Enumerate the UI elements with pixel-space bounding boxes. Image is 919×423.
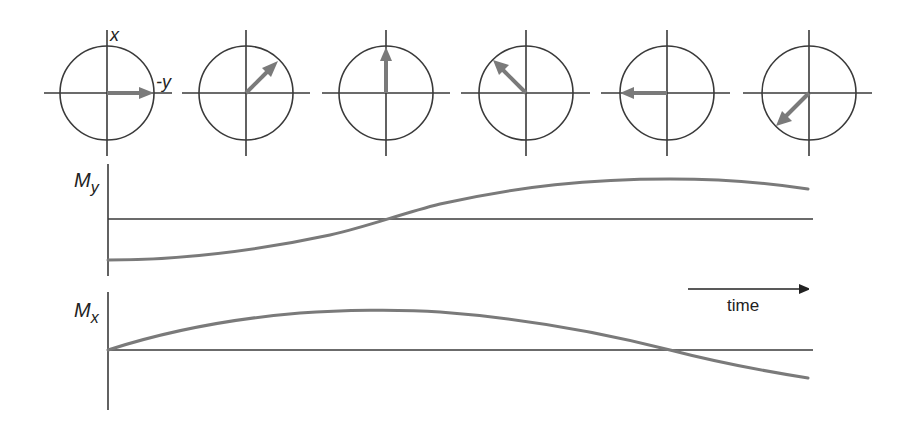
time-arrow: time (688, 289, 808, 315)
precession-diagram: x -y (0, 0, 919, 423)
neg-y-axis-label: -y (156, 72, 172, 92)
rotating-frame-circle-3 (461, 30, 590, 156)
rotating-frame-circle-5 (743, 30, 872, 156)
time-label: time (727, 296, 759, 315)
rotating-frame-circle-1 (182, 30, 310, 156)
my-plot: My (74, 164, 813, 276)
my-label: My (74, 169, 100, 196)
mx-label: Mx (74, 299, 100, 326)
x-axis-label: x (109, 25, 120, 45)
magnetization-vector-icon (620, 87, 634, 99)
magnetization-vector-icon (139, 87, 154, 99)
rotating-frame-circle-2 (322, 30, 450, 156)
mx-curve (108, 310, 808, 378)
rotating-frame-circle-4 (601, 30, 730, 156)
magnetization-vector-icon (380, 47, 392, 61)
mx-plot: Mx (74, 292, 813, 410)
rotating-frame-circle-0: x -y (44, 25, 172, 156)
